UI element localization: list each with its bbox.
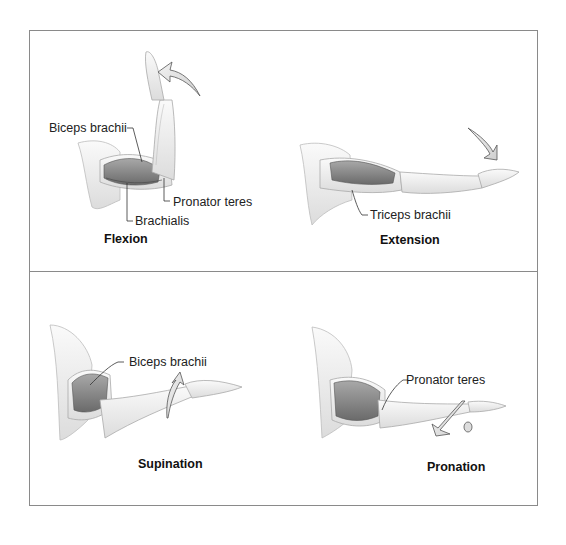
label-pronator-teres-pronation: Pronator teres <box>406 373 485 387</box>
label-biceps-brachii-flexion: Biceps brachii <box>49 121 127 135</box>
label-brachialis: Brachialis <box>135 214 189 228</box>
label-biceps-brachii-supination: Biceps brachii <box>129 355 207 369</box>
caption-supination: Supination <box>138 457 203 471</box>
caption-pronation: Pronation <box>427 460 485 474</box>
supination-arm-illustration <box>50 325 242 440</box>
label-triceps-brachii: Triceps brachii <box>370 208 451 222</box>
label-pronator-teres-flexion: Pronator teres <box>173 195 252 209</box>
caption-flexion: Flexion <box>104 232 148 246</box>
caption-extension: Extension <box>380 233 440 247</box>
